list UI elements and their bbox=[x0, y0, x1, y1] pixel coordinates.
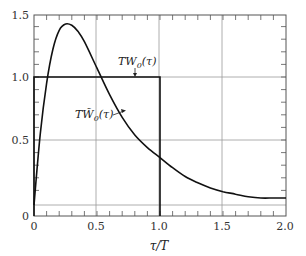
svg-text:TW0(τ): TW0(τ) bbox=[118, 55, 156, 70]
annotation-tw0: TW0(τ) bbox=[118, 55, 156, 77]
x-tick-0.5: 0.5 bbox=[87, 220, 105, 233]
annotation-tw0-arg: (τ) bbox=[142, 55, 157, 68]
x-tick-0: 0 bbox=[31, 220, 38, 233]
svg-text:TW̃0(τ): TW̃0(τ) bbox=[75, 108, 113, 123]
y-tick-1.5: 1.5 bbox=[12, 9, 30, 22]
annotation-tw0-tilde-main: TW̃ bbox=[75, 108, 95, 121]
series-step-tw0 bbox=[34, 77, 160, 216]
annotation-tw0-main: TW bbox=[118, 55, 138, 68]
annotation-tw0-tilde-arg: (τ) bbox=[99, 108, 114, 121]
x-tick-1.5: 1.5 bbox=[213, 220, 231, 233]
y-tick-0.5: 0.5 bbox=[12, 134, 30, 147]
y-tick-0: 0 bbox=[22, 210, 29, 223]
x-tick-1.0: 1.0 bbox=[150, 220, 168, 233]
x-tick-2.0: 2.0 bbox=[276, 220, 294, 233]
arrow-right-icon bbox=[121, 109, 126, 113]
x-axis-title: τ/T bbox=[150, 239, 170, 253]
y-tick-1.0: 1.0 bbox=[12, 71, 30, 84]
chart: 1.5 1.0 0.5 0 0 0.5 1.0 1.5 2.0 τ/T TW0(… bbox=[0, 0, 306, 256]
